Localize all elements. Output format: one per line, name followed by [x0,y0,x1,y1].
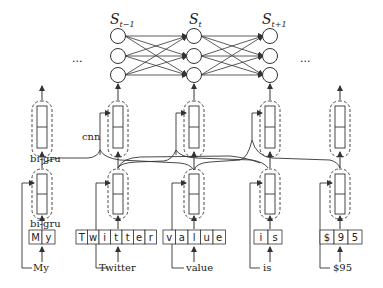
char-to-cell-arrows [42,216,340,229]
bottom-bigru-cells [32,169,350,219]
svg-text:e: e [136,232,142,243]
top-cell-3 [184,101,204,157]
state-labels: St−1 St St+1 [110,11,287,29]
ellipsis-right: ... [300,52,311,65]
svg-text:y: y [46,232,52,243]
diagram-canvas: St−1 St St+1 ... ... [0,0,383,288]
bottom-cell-4 [260,169,280,219]
cnn-label: cnn [82,131,101,142]
node-next-3 [263,68,278,83]
svg-text:w: w [89,232,97,243]
bigru-top-label: bi-gru [30,153,61,164]
word-my: My [33,262,49,273]
bottom-cell-3 [184,169,204,219]
svg-text:a: a [179,232,185,243]
svg-text:i: i [103,232,106,243]
char-sequence-twitter: T w i t t e r [76,230,157,244]
top-cell-4 [260,101,280,157]
char-sequence-my: M y [29,230,55,244]
node-next-1 [263,29,278,44]
node-next-2 [263,49,278,64]
svg-text:$: $ [324,232,330,243]
word-to-char-arrows [42,247,340,262]
svg-text:u: u [204,232,210,243]
word-labels: My Twitter value is $95 [33,262,352,273]
svg-text:i: i [260,232,263,243]
svg-text:t: t [126,232,130,243]
state-nodes [111,29,278,83]
svg-text:9: 9 [338,232,344,243]
bottom-cell-1 [32,169,52,219]
svg-text:s: s [272,232,277,243]
node-prev-2 [111,49,126,64]
svg-text:l: l [193,232,196,243]
bigru-bottom-label: bi-gru [30,218,61,229]
svg-text:v: v [166,232,172,243]
word-95: $95 [333,262,352,273]
node-prev-1 [111,29,126,44]
svg-text:e: e [216,232,222,243]
node-curr-3 [187,68,202,83]
top-cell-2 [108,101,128,157]
ellipsis-left: ... [72,52,83,65]
char-sequence-95: $ 9 5 [320,230,362,244]
node-curr-2 [187,49,202,64]
svg-text:t: t [114,232,118,243]
bottom-cell-5 [330,169,350,219]
svg-text:M: M [31,232,40,243]
top-cell-5 [330,101,350,157]
top-bigru-cells [32,101,350,157]
char-sequence-value: v a l u e [163,230,226,244]
state-label-next: St+1 [262,11,287,29]
word-is: is [263,262,271,273]
network-diagram: St−1 St St+1 ... ... [0,0,383,288]
state-label-prev: St−1 [110,11,135,29]
word-twitter: Twitter [99,262,136,273]
svg-text:5: 5 [352,232,358,243]
word-embedding-lines [22,183,332,268]
bottom-cell-2 [108,169,128,219]
top-cell-1 [32,101,52,157]
char-sequence-is: i s [254,230,282,244]
word-value: value [185,262,213,273]
bottom-to-top-arrows [42,152,340,168]
state-label-curr: St [189,11,203,29]
svg-text:T: T [78,232,86,243]
node-prev-3 [111,68,126,83]
top-output-arrows [42,84,340,100]
node-curr-1 [187,29,202,44]
